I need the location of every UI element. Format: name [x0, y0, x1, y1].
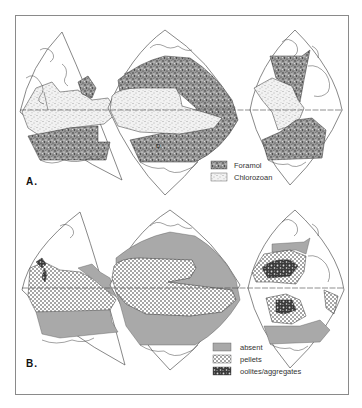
legend-item-chlorozoan: Chlorozoan [234, 172, 272, 183]
legend-label: absent [240, 343, 263, 352]
legend-swatch-absent [213, 343, 231, 351]
legend-a: Foramol Chlorozoan [234, 160, 272, 184]
figure: D. [0, 0, 362, 408]
panel-label-b: B. [26, 358, 38, 369]
legend-swatch-pellets [213, 355, 231, 363]
legend-b-swatches [213, 343, 231, 375]
panel-label-a: A. [26, 176, 38, 187]
legend-label: oolites/aggregates [240, 367, 301, 376]
maps-svg: D. [0, 0, 362, 408]
legend-item-foramol: Foramol [234, 160, 272, 171]
panel-a-lobe-indian [20, 32, 122, 180]
region-mark: D. [156, 143, 162, 149]
legend-label: pellets [240, 355, 262, 364]
legend-a-swatches [211, 161, 227, 181]
legend-label: Foramol [234, 161, 262, 170]
legend-item-ooids: oolites/aggregates [240, 366, 301, 377]
legend-swatch-foramol [211, 161, 227, 169]
legend-item-pellets: pellets [240, 354, 301, 365]
legend-item-absent: absent [240, 342, 301, 353]
legend-label: Chlorozoan [234, 173, 272, 182]
legend-b: absent pellets oolites/aggregates [240, 342, 301, 378]
panel-b-lobe-indian [22, 212, 125, 365]
legend-swatch-ooids [213, 367, 231, 375]
legend-swatch-chlorozoan [211, 173, 227, 181]
panel-a-lobe-pacific: D. [108, 30, 238, 195]
panel-a-map: D. [20, 30, 343, 195]
